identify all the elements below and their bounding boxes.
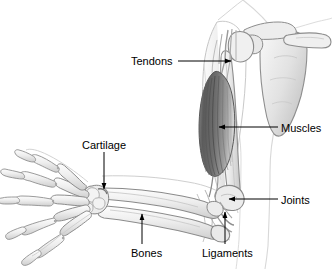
phalanx-bones <box>0 150 64 266</box>
clavicle-bone <box>284 33 331 48</box>
label-ligaments: Ligaments <box>202 247 253 259</box>
anatomy-figure: Tendons Muscles Joints Cartilage Bones L… <box>0 0 332 269</box>
label-cartilage: Cartilage <box>82 139 126 151</box>
label-bones: Bones <box>131 247 162 259</box>
metacarpal-bones <box>51 164 92 236</box>
arm-anatomy-illustration <box>0 0 332 269</box>
label-muscles: Muscles <box>281 122 321 134</box>
label-tendons: Tendons <box>131 55 173 67</box>
label-joints: Joints <box>281 194 310 206</box>
